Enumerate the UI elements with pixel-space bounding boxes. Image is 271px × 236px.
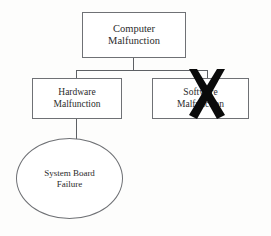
- node-computer-malfunction-label: Computer Malfunction: [105, 23, 163, 48]
- connector-horizontal-bus: [76, 70, 208, 71]
- connector-hardware-to-system-board: [76, 119, 77, 139]
- node-system-board-failure-label: System Board Failure: [41, 168, 98, 189]
- node-hardware-malfunction: Hardware Malfunction: [32, 78, 122, 119]
- node-software-malfunction-label: Software Malfunction: [174, 87, 227, 109]
- fault-tree-diagram: Computer Malfunction Hardware Malfunctio…: [0, 0, 271, 236]
- node-software-malfunction: Software Malfunction: [152, 78, 249, 119]
- node-system-board-failure: System Board Failure: [16, 138, 123, 219]
- node-hardware-malfunction-label: Hardware Malfunction: [51, 87, 104, 109]
- node-computer-malfunction: Computer Malfunction: [82, 12, 186, 58]
